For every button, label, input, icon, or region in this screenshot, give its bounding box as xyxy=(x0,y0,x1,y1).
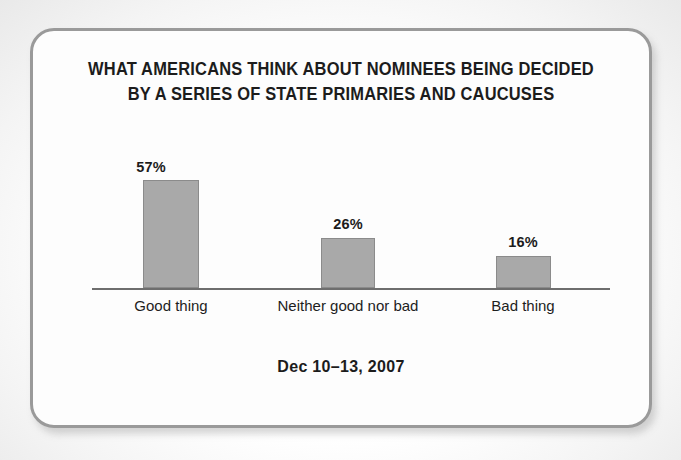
bar-neither-good-nor-bad[interactable] xyxy=(321,238,375,288)
category-label-1: Neither good nor bad xyxy=(258,297,438,314)
survey-date-note: Dec 10–13, 2007 xyxy=(33,358,649,376)
x-axis-baseline xyxy=(92,288,610,290)
bar-value-label-1: 26% xyxy=(312,216,384,232)
bar-bad-thing[interactable] xyxy=(496,256,551,288)
bar-value-label-2: 16% xyxy=(487,234,559,250)
category-label-2: Bad thing xyxy=(453,297,593,314)
category-label-0: Good thing xyxy=(101,297,241,314)
bar-value-label-0: 57% xyxy=(115,159,187,175)
chart-card: WHAT AMERICANS THINK ABOUT NOMINEES BEIN… xyxy=(30,28,652,428)
bar-good-thing[interactable] xyxy=(143,180,199,288)
